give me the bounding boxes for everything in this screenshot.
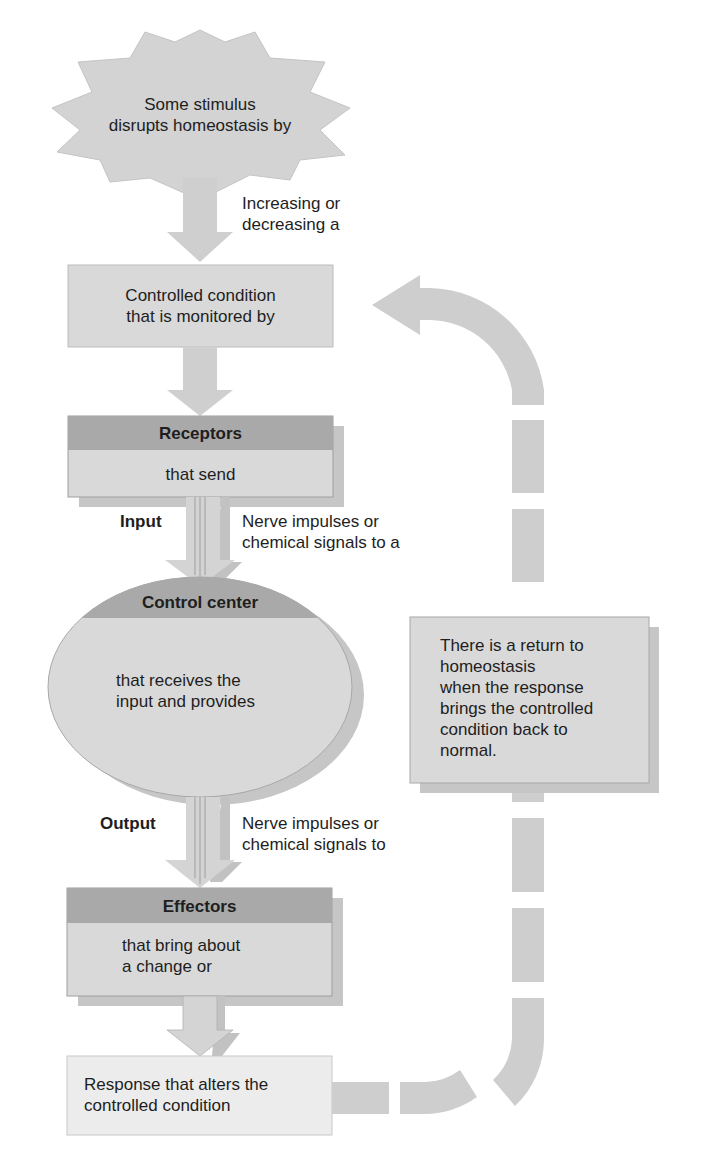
stimulus-text: Some stimulus disrupts homeostasis by — [80, 94, 320, 136]
receptors-body: that send — [68, 464, 333, 485]
effectors-header: Effectors — [67, 896, 332, 917]
control-center-header: Control center — [48, 592, 352, 613]
input-description: Nerve impulses or chemical signals to a — [242, 511, 462, 553]
stimulus-arrow-label: Increasing or decreasing a — [242, 193, 402, 235]
return-note-text: There is a return to homeostasis when th… — [440, 635, 640, 761]
response-text: Response that alters the controlled cond… — [84, 1074, 324, 1116]
output-description: Nerve impulses or chemical signals to — [242, 813, 462, 855]
output-label: Output — [100, 813, 156, 834]
input-label: Input — [120, 511, 162, 532]
receptors-header: Receptors — [68, 423, 333, 444]
effectors-body: that bring about a change or — [122, 935, 322, 977]
arrow-to-receptors — [167, 347, 233, 416]
diagram-canvas — [0, 0, 701, 1159]
stimulus-arrow — [167, 178, 233, 262]
control-center-body: that receives the input and provides — [116, 670, 316, 712]
controlled-condition-text: Controlled condition that is monitored b… — [68, 285, 333, 327]
